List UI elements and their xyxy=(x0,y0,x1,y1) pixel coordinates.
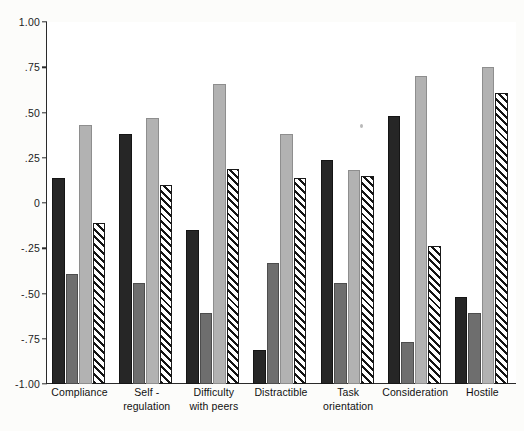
bar xyxy=(348,170,361,384)
x-axis-label: Hostile xyxy=(443,386,522,400)
bar xyxy=(79,125,92,384)
bar-group xyxy=(383,22,450,383)
bar xyxy=(334,283,347,384)
plot-area: 1.00.75.50.250-.25-.50-.75-1.00 xyxy=(46,22,516,384)
bar xyxy=(93,223,106,384)
bar xyxy=(133,283,146,384)
x-axis-label-line: orientation xyxy=(309,400,388,414)
bar-group xyxy=(450,22,517,383)
bar-group xyxy=(248,22,315,383)
bar xyxy=(213,84,226,384)
bar-group xyxy=(47,22,114,383)
bar xyxy=(361,176,374,384)
bar xyxy=(227,169,240,384)
bar xyxy=(321,160,334,384)
bar xyxy=(253,350,266,384)
bar-chart: 1.00.75.50.250-.25-.50-.75-1.00 Complian… xyxy=(0,0,524,431)
bar xyxy=(200,313,213,384)
x-axis-label-line: with peers xyxy=(174,400,253,414)
bar xyxy=(415,76,428,384)
bar xyxy=(294,178,307,384)
bar xyxy=(146,118,159,384)
bar xyxy=(66,274,79,384)
scan-artifact xyxy=(360,124,363,128)
bar-groups xyxy=(47,22,516,383)
bar xyxy=(388,116,401,384)
bar xyxy=(428,246,441,384)
x-axis-labels: ComplianceSelf -regulationDifficultywith… xyxy=(46,386,516,431)
bar-group xyxy=(181,22,248,383)
bar xyxy=(119,134,132,384)
bar xyxy=(401,342,414,384)
bar-group xyxy=(316,22,383,383)
bar xyxy=(52,178,65,384)
bar xyxy=(267,263,280,384)
bar xyxy=(482,67,495,384)
x-axis-label-line: Hostile xyxy=(443,386,522,400)
bar-group xyxy=(114,22,181,383)
bar xyxy=(455,297,468,384)
bar xyxy=(468,313,481,384)
bar xyxy=(160,185,173,384)
bar xyxy=(186,230,199,384)
y-axis-tick-mark xyxy=(42,383,47,384)
bar xyxy=(280,134,293,384)
bar xyxy=(495,93,508,384)
